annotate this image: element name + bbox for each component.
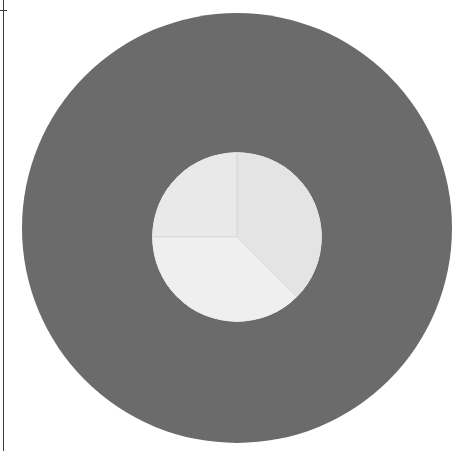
chart-canvas bbox=[0, 0, 460, 451]
axis-top-tick bbox=[0, 10, 7, 11]
pie-chart[interactable] bbox=[152, 152, 322, 322]
axis-vertical-rule bbox=[3, 0, 4, 451]
pie-chart-svg[interactable] bbox=[152, 152, 322, 322]
